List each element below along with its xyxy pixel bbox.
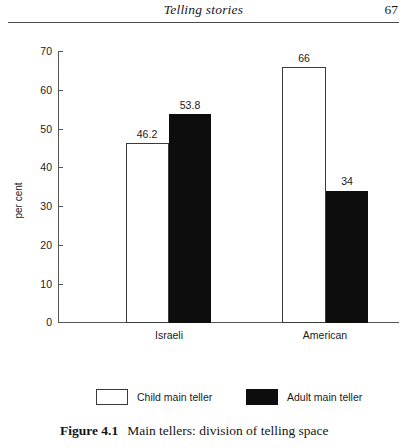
bar-american-child[interactable]	[282, 67, 326, 323]
bar-american-adult[interactable]	[326, 191, 368, 323]
bar-chart: 70 60 50 40 30 20 10 0 per cent 46.2 53.…	[0, 24, 407, 354]
bar-value-israeli-adult: 53.8	[160, 100, 220, 111]
x-category-israeli: Israeli	[109, 329, 229, 341]
running-head-title: Telling stories	[0, 2, 407, 18]
y-tick-label-0: 0	[6, 317, 52, 328]
chart-legend: Child main teller Adult main teller	[0, 386, 407, 412]
page-header: Telling stories 67	[0, 0, 407, 24]
bar-israeli-child[interactable]	[126, 143, 169, 323]
figure-caption: Figure 4.1Main tellers: division of tell…	[60, 423, 407, 439]
y-tick-label-50: 50	[6, 124, 52, 135]
y-tick-10	[58, 284, 63, 285]
y-tick-0	[58, 322, 63, 323]
y-axis-title: per cent	[13, 171, 24, 231]
bar-israeli-adult[interactable]	[169, 114, 211, 323]
y-tick-30	[58, 206, 63, 207]
y-tick-label-20: 20	[6, 240, 52, 251]
y-tick-label-10: 10	[6, 279, 52, 290]
y-tick-60	[58, 90, 63, 91]
header-rule	[8, 22, 399, 23]
y-tick-20	[58, 245, 63, 246]
bar-value-israeli-child: 46.2	[117, 129, 177, 140]
legend-label-child-main-teller: Child main teller	[137, 390, 212, 404]
bar-value-american-adult: 34	[317, 176, 377, 187]
y-axis-line	[58, 51, 59, 323]
figure-caption-text: Main tellers: division of telling space	[127, 423, 328, 438]
y-tick-70	[58, 51, 63, 52]
y-tick-40	[58, 167, 63, 168]
y-tick-label-70: 70	[6, 46, 52, 57]
bar-value-american-child: 66	[274, 53, 334, 64]
page-number: 67	[385, 2, 399, 18]
figure-4-1: 70 60 50 40 30 20 10 0 per cent 46.2 53.…	[0, 24, 407, 448]
x-category-american: American	[265, 329, 385, 341]
y-tick-50	[58, 129, 63, 130]
legend-swatch-adult-main-teller	[246, 389, 278, 405]
figure-caption-number: Figure 4.1	[60, 423, 118, 438]
legend-swatch-child-main-teller	[96, 389, 128, 405]
y-tick-label-60: 60	[6, 85, 52, 96]
legend-label-adult-main-teller: Adult main teller	[287, 390, 362, 404]
